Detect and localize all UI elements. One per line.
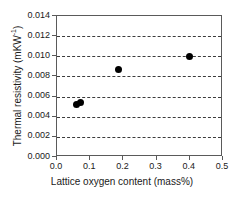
x-axis-tick bbox=[122, 156, 123, 160]
data-point bbox=[77, 99, 84, 106]
y-axis-title-exponent: -1 bbox=[10, 28, 17, 34]
y-axis-title: Thermal resistivity (mKW-1) bbox=[12, 25, 23, 146]
data-point bbox=[186, 53, 193, 60]
chart-figure: Thermal resistivity (mKW-1) 0.0000.0020.… bbox=[0, 0, 244, 208]
plot-area bbox=[56, 15, 222, 156]
y-axis-tick-label: 0.004 bbox=[27, 110, 50, 121]
y-axis-title-container: Thermal resistivity (mKW-1) bbox=[10, 15, 24, 156]
y-axis-tick-label: 0.000 bbox=[27, 151, 50, 162]
gridline-horizontal bbox=[57, 56, 221, 57]
y-axis-tick-label: 0.002 bbox=[27, 130, 50, 141]
x-axis-tick bbox=[156, 156, 157, 160]
y-axis-title-tail: ) bbox=[12, 25, 23, 28]
x-axis-tick bbox=[222, 156, 223, 160]
gridline-horizontal bbox=[57, 36, 221, 37]
y-axis-title-main: Thermal resistivity (mKW bbox=[12, 35, 23, 146]
x-axis-tick bbox=[56, 156, 57, 160]
gridline-horizontal bbox=[57, 76, 221, 77]
x-axis-tick bbox=[89, 156, 90, 160]
gridline-horizontal bbox=[57, 117, 221, 118]
y-axis-tick-label: 0.012 bbox=[27, 30, 50, 41]
x-axis-title: Lattice oxygen content (mass%) bbox=[0, 176, 244, 187]
y-axis-tick-label: 0.010 bbox=[27, 50, 50, 61]
x-axis-tick bbox=[189, 156, 190, 160]
gridline-horizontal bbox=[57, 137, 221, 138]
y-axis-tick-label: 0.008 bbox=[27, 70, 50, 81]
gridline-horizontal bbox=[57, 97, 221, 98]
y-axis-tick-label: 0.014 bbox=[27, 10, 50, 21]
y-axis-tick-label: 0.006 bbox=[27, 90, 50, 101]
x-axis-tick-label: 0.5 bbox=[202, 161, 242, 172]
data-point bbox=[115, 66, 122, 73]
